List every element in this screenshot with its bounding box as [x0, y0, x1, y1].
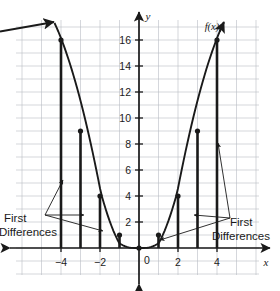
- y-axis-label: y: [145, 10, 151, 22]
- data-point-4: [214, 37, 219, 42]
- y-tick-label-8: 8: [125, 138, 131, 150]
- x-tick-label-2: 2: [175, 256, 181, 268]
- x-tick-label-4: 4: [214, 256, 220, 268]
- y-tick-label-12: 12: [119, 86, 131, 98]
- x-tick-label-neg2: −2: [94, 256, 106, 268]
- y-tick-label-2: 2: [125, 216, 131, 228]
- data-point-neg2: [97, 193, 102, 198]
- data-point-3: [195, 128, 200, 133]
- x-tick-label-neg4: −4: [55, 256, 67, 268]
- left-annotation-line2: Differences: [0, 226, 57, 238]
- graph-figure: −4 −2 2 4 2 4 6 8 10 12 14 16 0 x y: [0, 0, 280, 291]
- y-tick-label-4: 4: [125, 190, 131, 202]
- data-point-2: [175, 193, 180, 198]
- data-point-neg1: [117, 232, 122, 237]
- function-label: f(x): [205, 21, 220, 33]
- origin-label: 0: [144, 254, 150, 266]
- data-point-1: [156, 232, 161, 237]
- left-annotation-line1: First: [4, 212, 27, 224]
- y-tick-label-16: 16: [119, 34, 131, 46]
- x-axis-label: x: [263, 256, 269, 268]
- data-point-neg3: [78, 128, 83, 133]
- data-point-neg4: [58, 37, 63, 42]
- data-point-0: [136, 245, 141, 250]
- y-tick-label-10: 10: [119, 112, 131, 124]
- y-tick-label-6: 6: [125, 164, 131, 176]
- right-annotation-line1: First: [230, 216, 253, 228]
- right-annotation-line2: Differences: [212, 230, 270, 242]
- y-tick-label-14: 14: [119, 60, 131, 72]
